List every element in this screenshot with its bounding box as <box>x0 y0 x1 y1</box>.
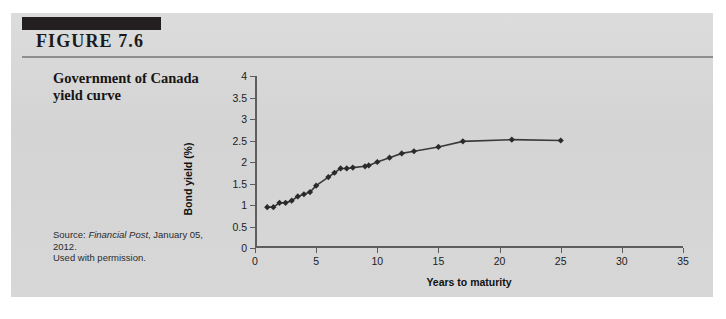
data-point-marker <box>282 200 288 206</box>
source-publication: Financial Post <box>88 229 148 240</box>
y-tick <box>250 76 255 77</box>
y-tick-label: 1 <box>241 199 247 211</box>
x-tick <box>622 248 623 253</box>
y-tick-label: 0 <box>241 242 247 254</box>
data-point-marker <box>301 191 307 197</box>
data-point-marker <box>374 159 380 165</box>
data-point-marker <box>350 164 356 170</box>
data-point-marker <box>558 137 564 143</box>
x-axis-title: Years to maturity <box>255 276 683 288</box>
y-tick <box>250 227 255 228</box>
figure-caption: Government of Canada yield curve <box>53 70 203 104</box>
y-tick <box>250 98 255 99</box>
x-tick-label: 35 <box>677 255 689 267</box>
yield-curve-chart: Bond yield (%) 00.511.522.533.5405101520… <box>186 66 701 291</box>
x-tick <box>683 248 684 253</box>
yield-curve-series <box>255 76 683 248</box>
y-tick-label: 3.5 <box>232 92 247 104</box>
data-point-marker <box>411 148 417 154</box>
plot-area: 00.511.522.533.5405101520253035 <box>255 76 683 248</box>
data-point-marker <box>344 165 350 171</box>
data-point-marker <box>399 150 405 156</box>
data-point-marker <box>460 138 466 144</box>
x-tick-label: 20 <box>494 255 506 267</box>
x-tick <box>377 248 378 253</box>
source-permission: Used with permission. <box>53 252 146 263</box>
data-point-marker <box>386 155 392 161</box>
y-tick <box>250 162 255 163</box>
x-tick-label: 30 <box>616 255 628 267</box>
x-tick-label: 0 <box>252 255 258 267</box>
x-tick <box>500 248 501 253</box>
y-tick <box>250 141 255 142</box>
data-point-marker <box>435 144 441 150</box>
x-tick <box>255 248 256 253</box>
y-tick-label: 4 <box>241 70 247 82</box>
y-tick-label: 1.5 <box>232 178 247 190</box>
x-tick <box>438 248 439 253</box>
y-tick-label: 2 <box>241 156 247 168</box>
y-tick-label: 0.5 <box>232 221 247 233</box>
x-tick <box>561 248 562 253</box>
x-tick-label: 15 <box>433 255 445 267</box>
y-tick <box>250 119 255 120</box>
figure-header-bar <box>22 17 161 30</box>
y-axis-title: Bond yield (%) <box>182 142 194 215</box>
figure-root: FIGURE 7.6 Government of Canada yield cu… <box>0 0 726 319</box>
figure-number-title: FIGURE 7.6 <box>36 31 144 52</box>
y-tick-label: 3 <box>241 113 247 125</box>
figure-divider-rule <box>22 56 713 58</box>
x-tick-label: 25 <box>555 255 567 267</box>
y-tick-label: 2.5 <box>232 135 247 147</box>
y-tick <box>250 205 255 206</box>
x-tick-label: 10 <box>371 255 383 267</box>
x-tick-label: 5 <box>313 255 319 267</box>
x-tick <box>316 248 317 253</box>
data-point-marker <box>264 204 270 210</box>
y-tick <box>250 184 255 185</box>
data-point-marker <box>509 137 515 143</box>
source-prefix: Source: <box>53 229 88 240</box>
